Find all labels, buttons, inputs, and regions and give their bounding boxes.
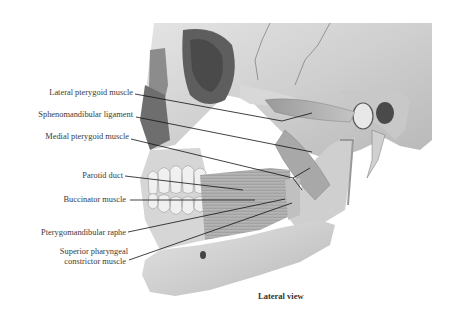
label-parotid-duct: Parotid duct: [0, 171, 123, 181]
anatomy-figure: Lateral pterygoid muscle Sphenomandibula…: [0, 0, 455, 318]
label-lateral-pterygoid: Lateral pterygoid muscle: [0, 88, 133, 98]
leader-superior-pharyngeal: [129, 203, 292, 260]
leader-lines: [0, 0, 455, 318]
leader-lateral-pterygoid: [135, 94, 282, 121]
label-sphenomandibular-ligament: Sphenomandibular ligament: [0, 110, 133, 120]
leader-medial-pterygoid: [131, 139, 293, 178]
leader-parotid-duct: [125, 176, 243, 190]
label-superior-pharyngeal-1: Superior pharyngeal: [0, 247, 128, 257]
label-medial-pterygoid: Medial pterygoid muscle: [0, 132, 129, 142]
label-buccinator: Buccinator muscle: [0, 195, 126, 205]
label-pterygomandibular-raphe: Pterygomandibular raphe: [0, 228, 126, 238]
label-superior-pharyngeal-2: constrictor muscle: [0, 257, 126, 267]
figure-caption: Lateral view: [258, 291, 304, 301]
leader-pterygomandibular-raphe: [128, 199, 285, 232]
